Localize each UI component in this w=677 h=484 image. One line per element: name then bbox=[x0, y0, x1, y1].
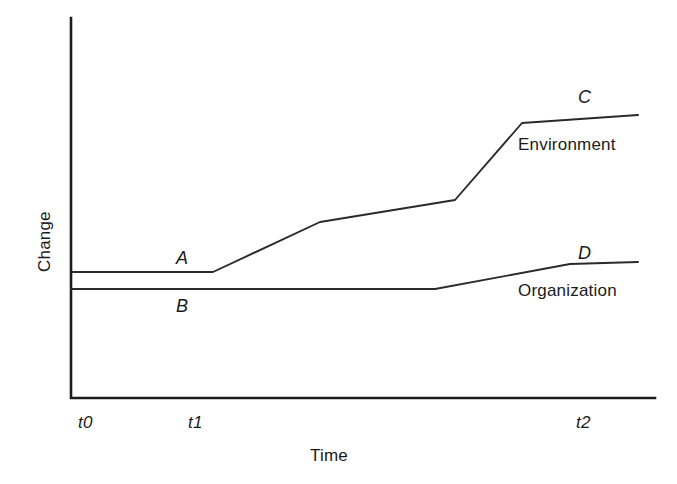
x-axis-label: Time bbox=[310, 447, 348, 464]
curve-label-a: A bbox=[176, 249, 188, 267]
axis-spine bbox=[71, 18, 655, 398]
x-tick-label-t2: t2 bbox=[576, 414, 591, 431]
series-annotation-organization: Organization bbox=[518, 282, 617, 299]
curve-label-d: D bbox=[578, 244, 591, 262]
x-tick-label-t0: t0 bbox=[78, 414, 93, 431]
series-annotation-environment: Environment bbox=[518, 136, 616, 153]
curve-label-c: C bbox=[578, 88, 591, 106]
chart-plot-area bbox=[0, 0, 677, 484]
x-tick-label-t1: t1 bbox=[188, 414, 203, 431]
chart-figure: Change Time t0 t1 t2 A B C D Environment… bbox=[0, 0, 677, 484]
y-axis-label: Change bbox=[36, 211, 53, 272]
curve-label-b: B bbox=[176, 297, 188, 315]
